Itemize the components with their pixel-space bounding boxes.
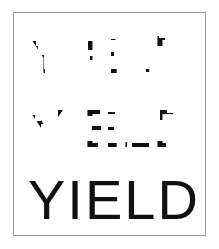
stimulus-row-partial-degraded: YIELD <box>14 93 207 167</box>
word-text-heavy: YIELD <box>28 24 194 84</box>
word-text-clean: YIELD <box>28 168 200 231</box>
word-text-partial: YIELD <box>28 98 194 158</box>
stimulus-stack: YIELD YIELD YIELD <box>14 13 207 237</box>
clean-word-svg: YIELD <box>14 167 207 237</box>
degraded-word-heavy-svg: YIELD <box>14 19 207 93</box>
degraded-word-partial-svg: YIELD <box>14 93 207 167</box>
figure-root: YIELD YIELD YIELD <box>0 0 219 249</box>
stimulus-row-heavy-degraded: YIELD <box>14 19 207 93</box>
figure-border-frame: YIELD YIELD YIELD <box>13 12 206 236</box>
stimulus-row-clean: YIELD <box>14 167 207 237</box>
